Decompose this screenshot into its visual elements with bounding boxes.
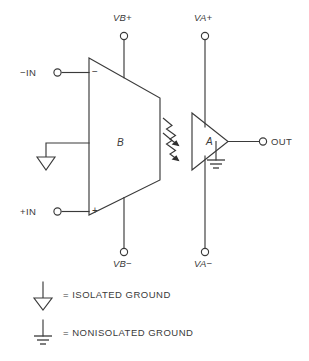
block-b-minus-mark: − [92, 67, 98, 77]
vb-minus-terminal[interactable] [120, 248, 127, 255]
va-minus-label: VA− [194, 259, 212, 269]
plus-input-label: +IN [20, 207, 36, 217]
schematic-canvas [0, 0, 309, 361]
legend-nonisolated-ground-text: = NONISOLATED GROUND [63, 328, 193, 338]
isolated-ground-symbol [37, 157, 55, 170]
block-b-plus-mark: + [92, 206, 98, 216]
minus-input-label: −IN [20, 68, 36, 78]
isolation-amplifier-diagram: VB+ VB− VA+ VA− −IN +IN OUT − + B A = IS… [0, 0, 309, 361]
va-minus-terminal[interactable] [201, 248, 208, 255]
minus-input-terminal[interactable] [54, 69, 61, 76]
va-plus-label: VA+ [194, 13, 212, 23]
va-plus-terminal[interactable] [201, 32, 208, 39]
plus-input-terminal[interactable] [54, 208, 61, 215]
isolated-ground-wire [46, 143, 89, 157]
block-a-label: A [206, 137, 213, 147]
vb-plus-label: VB+ [113, 13, 132, 23]
legend-isolated-ground-symbol [34, 298, 52, 310]
output-label: OUT [271, 137, 292, 147]
block-b-label: B [117, 138, 124, 148]
vb-minus-label: VB− [113, 259, 132, 269]
vb-plus-terminal[interactable] [120, 32, 127, 39]
legend-isolated-ground-text: = ISOLATED GROUND [63, 290, 171, 300]
output-terminal[interactable] [259, 138, 266, 145]
block-b-outline [89, 58, 160, 215]
